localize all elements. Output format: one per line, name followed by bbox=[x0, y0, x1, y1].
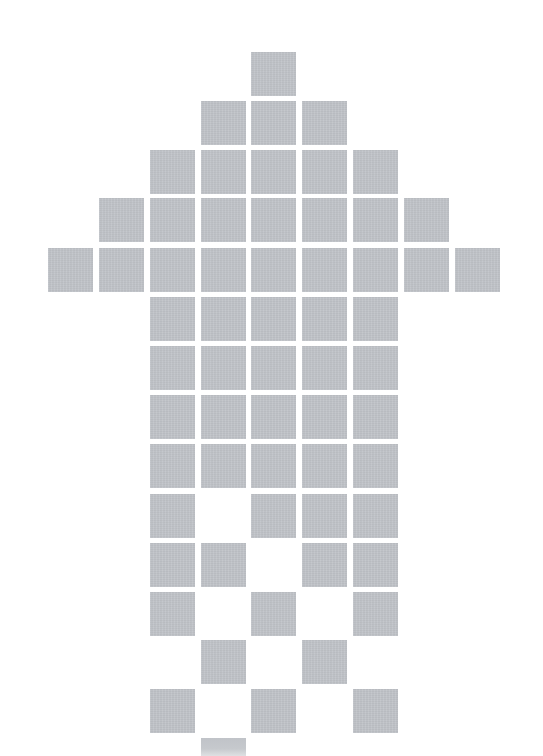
arrow-tile bbox=[353, 248, 398, 292]
arrow-tile bbox=[48, 248, 93, 292]
arrow-tile bbox=[251, 297, 296, 341]
arrow-tile bbox=[404, 198, 449, 242]
arrow-tile bbox=[251, 395, 296, 439]
arrow-tile bbox=[302, 494, 347, 538]
arrow-tile bbox=[353, 395, 398, 439]
arrow-tile bbox=[201, 395, 246, 439]
arrow-tile bbox=[353, 150, 398, 194]
arrow-tile bbox=[353, 444, 398, 488]
arrow-tile bbox=[302, 297, 347, 341]
arrow-tile bbox=[455, 248, 500, 292]
arrow-tile bbox=[201, 150, 246, 194]
arrow-tile bbox=[201, 248, 246, 292]
arrow-tile bbox=[353, 592, 398, 636]
arrow-tile bbox=[201, 101, 246, 145]
arrow-tile bbox=[302, 346, 347, 390]
arrow-tile bbox=[150, 543, 195, 587]
arrow-tile bbox=[201, 444, 246, 488]
arrow-tile bbox=[201, 738, 246, 756]
arrow-tile bbox=[353, 198, 398, 242]
arrow-tile bbox=[251, 101, 296, 145]
arrow-tile bbox=[302, 150, 347, 194]
arrow-tile bbox=[251, 198, 296, 242]
arrow-tile bbox=[353, 297, 398, 341]
arrow-tile bbox=[99, 248, 144, 292]
arrow-tile bbox=[302, 198, 347, 242]
arrow-tile bbox=[251, 150, 296, 194]
arrow-tile bbox=[201, 346, 246, 390]
arrow-tile bbox=[251, 52, 296, 96]
arrow-tile bbox=[201, 640, 246, 684]
arrow-tile bbox=[353, 689, 398, 733]
arrow-tile bbox=[150, 248, 195, 292]
arrow-tile bbox=[353, 543, 398, 587]
arrow-tile bbox=[251, 248, 296, 292]
arrow-tile bbox=[353, 346, 398, 390]
arrow-tile bbox=[150, 689, 195, 733]
arrow-tile bbox=[150, 592, 195, 636]
arrow-tile bbox=[251, 444, 296, 488]
arrow-tile bbox=[201, 297, 246, 341]
arrow-tile bbox=[150, 494, 195, 538]
arrow-tile bbox=[201, 543, 246, 587]
arrow-tile bbox=[302, 640, 347, 684]
arrow-tile bbox=[302, 101, 347, 145]
arrow-tile bbox=[302, 395, 347, 439]
arrow-tile bbox=[150, 346, 195, 390]
arrow-tile bbox=[150, 150, 195, 194]
arrow-tile bbox=[150, 297, 195, 341]
arrow-tile bbox=[150, 198, 195, 242]
arrow-tile bbox=[251, 494, 296, 538]
arrow-tile bbox=[251, 689, 296, 733]
arrow-tile bbox=[251, 346, 296, 390]
arrow-tile bbox=[99, 198, 144, 242]
pixel-arrow-graphic bbox=[0, 0, 543, 756]
arrow-tile bbox=[404, 248, 449, 292]
arrow-tile bbox=[150, 395, 195, 439]
arrow-tile bbox=[302, 543, 347, 587]
arrow-tile bbox=[302, 444, 347, 488]
arrow-tile bbox=[201, 198, 246, 242]
arrow-tile bbox=[251, 592, 296, 636]
arrow-tile bbox=[150, 444, 195, 488]
arrow-tile bbox=[353, 494, 398, 538]
arrow-tile bbox=[302, 248, 347, 292]
